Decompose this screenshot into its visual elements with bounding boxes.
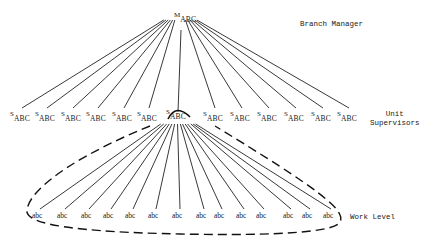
supervisor-sub: ABC bbox=[141, 114, 157, 123]
work-level-label: Work Level bbox=[350, 213, 395, 222]
supervisor-sub: ABC bbox=[207, 114, 223, 123]
supervisor-sub: ABC bbox=[261, 114, 277, 123]
supervisor-node: SABC bbox=[284, 111, 304, 119]
supervisor-sub: ABC bbox=[170, 112, 186, 121]
worker-node: abc bbox=[214, 211, 224, 220]
worker-node: abc bbox=[323, 211, 333, 220]
unit-supervisors-line2: Supervisors bbox=[370, 119, 420, 128]
supervisor-node: SABC bbox=[61, 111, 81, 119]
unit-supervisors-label: Unit Supervisors bbox=[370, 110, 420, 127]
branch-manager-label: Branch Manager bbox=[300, 20, 363, 29]
supervisor-node: SABC bbox=[86, 111, 106, 119]
supervisor-node: SABC bbox=[35, 111, 55, 119]
supervisor-sub: ABC bbox=[14, 114, 30, 123]
worker-node: abc bbox=[125, 211, 135, 220]
supervisor-node: SABC bbox=[230, 111, 250, 119]
worker-node: abc bbox=[172, 211, 182, 220]
supervisor-node: SABC bbox=[311, 111, 331, 119]
supervisor-sub: ABC bbox=[116, 114, 132, 123]
supervisor-node: SABC bbox=[166, 109, 186, 117]
worker-node: abc bbox=[283, 211, 293, 220]
worker-node: abc bbox=[302, 211, 312, 220]
supervisor-node: SABC bbox=[137, 111, 157, 119]
supervisor-sub: ABC bbox=[288, 114, 304, 123]
worker-node: abc bbox=[81, 211, 91, 220]
supervisor-sub: ABC bbox=[65, 114, 81, 123]
worker-node: abc bbox=[196, 211, 206, 220]
supervisor-node: SABC bbox=[112, 111, 132, 119]
supervisor-sub: ABC bbox=[90, 114, 106, 123]
worker-node: abc bbox=[256, 211, 266, 220]
supervisor-sub: ABC bbox=[234, 114, 250, 123]
branch-manager-node: MABC bbox=[174, 12, 196, 20]
worker-node: abc bbox=[32, 211, 42, 220]
supervisor-sub: ABC bbox=[315, 114, 331, 123]
worker-node: abc bbox=[57, 211, 67, 220]
worker-node: abc bbox=[103, 211, 113, 220]
manager-sub: ABC bbox=[180, 15, 196, 24]
supervisor-node: SABC bbox=[257, 111, 277, 119]
worker-node: abc bbox=[148, 211, 158, 220]
supervisor-sub: ABC bbox=[39, 114, 55, 123]
unit-supervisors-line1: Unit bbox=[370, 110, 420, 119]
supervisor-sub: ABC bbox=[341, 114, 357, 123]
supervisor-node: SABC bbox=[337, 111, 357, 119]
worker-node: abc bbox=[236, 211, 246, 220]
supervisor-node: SABC bbox=[10, 111, 30, 119]
supervisor-node: SABC bbox=[203, 111, 223, 119]
